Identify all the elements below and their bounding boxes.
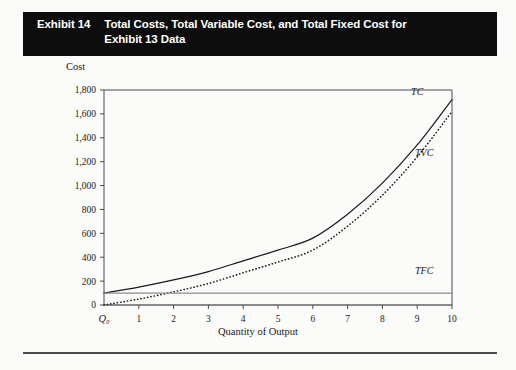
x-tick-label: 9 (415, 314, 420, 324)
y-tick-label: 1,400 (75, 133, 97, 143)
curve-label-tvc: TVC (415, 147, 434, 158)
x-tick-label: 6 (310, 314, 315, 324)
curve-label-tfc: TFC (415, 265, 434, 276)
x-tick-label: 4 (241, 314, 246, 324)
x-tick-label: 2 (171, 314, 176, 324)
chart-plot-area: Cost 02004006008001,0001,2001,4001,6001,… (0, 56, 516, 356)
exhibit-title: Total Costs, Total Variable Cost, and To… (104, 17, 434, 47)
x-tick-label: 10 (447, 314, 457, 324)
x-tick-label: 7 (345, 314, 350, 324)
y-tick-label: 1,600 (75, 109, 97, 119)
y-tick-label: 200 (82, 277, 97, 287)
x-tick-label: 1 (136, 314, 141, 324)
curve-tvc (104, 112, 452, 306)
exhibit-figure: Exhibit 14 Total Costs, Total Variable C… (0, 0, 516, 370)
y-tick-label: 0 (91, 300, 96, 310)
x-tick-label: Q₀ (98, 313, 110, 324)
exhibit-number-label: Exhibit 14 (37, 17, 104, 32)
y-tick-label: 400 (82, 253, 97, 263)
x-axis-title: Quantity of Output (0, 326, 516, 337)
y-tick-label: 1,200 (75, 157, 97, 167)
exhibit-header-bar: Exhibit 14 Total Costs, Total Variable C… (23, 12, 497, 56)
x-tick-label: 3 (206, 314, 211, 324)
curve-label-tc: TC (411, 86, 424, 97)
footer-divider (23, 352, 497, 354)
x-tick-label: 8 (380, 314, 385, 324)
y-tick-label: 1,000 (75, 181, 97, 191)
y-tick-label: 1,800 (75, 85, 97, 95)
y-tick-label: 600 (82, 229, 97, 239)
cost-curves-chart: 02004006008001,0001,2001,4001,6001,800Q₀… (0, 56, 516, 356)
curve-tc (104, 100, 452, 294)
x-tick-label: 5 (276, 314, 281, 324)
y-tick-label: 800 (82, 205, 97, 215)
